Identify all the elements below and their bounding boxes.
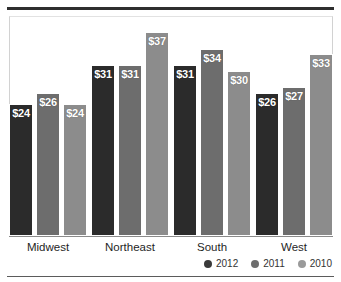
bar-value-label: $34 [203, 50, 220, 64]
category-label-south: South [173, 239, 251, 255]
bar-group-south: $31$34$30 [173, 16, 251, 236]
category-label-west: West [255, 239, 333, 255]
bar-chart-figure: $24$26$24$31$31$37$31$34$30$26$27$33 Mid… [0, 0, 341, 282]
legend-swatch-icon [298, 260, 306, 268]
bar-west-2012[interactable]: $26 [255, 93, 279, 236]
bottom-divider-rule [7, 276, 334, 277]
bar-groups-container: $24$26$24$31$31$37$31$34$30$26$27$33 [9, 16, 333, 236]
legend-label: 2012 [216, 259, 238, 269]
chart-legend: 201220112010 [204, 259, 332, 269]
legend-item-2011[interactable]: 2011 [251, 259, 285, 269]
bar-value-label: $26 [258, 94, 275, 108]
bar-value-label: $24 [66, 105, 83, 119]
legend-swatch-icon [251, 260, 259, 268]
bar-value-label: $31 [94, 66, 111, 80]
legend-swatch-icon [204, 260, 212, 268]
bar-south-2010[interactable]: $30 [227, 71, 251, 236]
bar-value-label: $24 [12, 105, 29, 119]
legend-item-2012[interactable]: 2012 [204, 259, 238, 269]
category-label-northeast: Northeast [91, 239, 169, 255]
legend-label: 2011 [263, 259, 285, 269]
bar-northeast-2010[interactable]: $37 [145, 32, 169, 236]
bar-value-label: $33 [312, 55, 329, 69]
legend-item-2010[interactable]: 2010 [298, 259, 332, 269]
bar-value-label: $30 [230, 72, 247, 86]
bar-group-west: $26$27$33 [255, 16, 333, 236]
bar-northeast-2011[interactable]: $31 [118, 65, 142, 236]
bar-group-northeast: $31$31$37 [91, 16, 169, 236]
x-axis-category-labels: MidwestNortheastSouthWest [9, 239, 333, 255]
top-divider-rule [7, 7, 334, 10]
category-label-midwest: Midwest [9, 239, 87, 255]
bar-midwest-2010[interactable]: $24 [63, 104, 87, 236]
legend-label: 2010 [310, 259, 332, 269]
bar-west-2011[interactable]: $27 [282, 87, 306, 236]
bar-south-2012[interactable]: $31 [173, 65, 197, 236]
bar-south-2011[interactable]: $34 [200, 49, 224, 236]
x-axis-line [9, 236, 333, 237]
bar-value-label: $37 [148, 33, 165, 47]
bar-value-label: $26 [39, 94, 56, 108]
bar-group-midwest: $24$26$24 [9, 16, 87, 236]
bar-midwest-2012[interactable]: $24 [9, 104, 33, 236]
bar-value-label: $31 [176, 66, 193, 80]
bar-midwest-2011[interactable]: $26 [36, 93, 60, 236]
bar-value-label: $27 [285, 88, 302, 102]
bar-value-label: $31 [121, 66, 138, 80]
bar-west-2010[interactable]: $33 [309, 54, 333, 236]
bar-northeast-2012[interactable]: $31 [91, 65, 115, 236]
